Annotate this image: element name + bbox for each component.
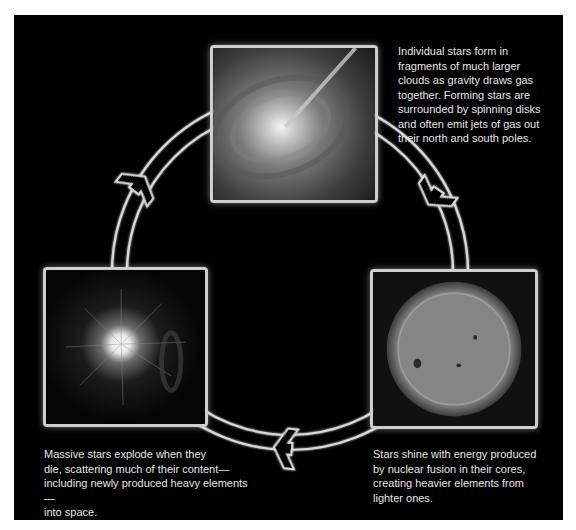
star-formation-caption: Individual stars form in fragments of mu…	[398, 44, 568, 146]
star-formation-image	[210, 45, 378, 203]
forming-star-disk-with-jet	[213, 48, 375, 200]
main-sequence-image	[370, 269, 538, 429]
main-sequence-caption: Stars shine with energy produced by nucl…	[373, 447, 558, 505]
sun-with-sunspots	[373, 272, 535, 426]
arrow-clockwise-up-right-icon	[116, 164, 161, 206]
supernova-explosion	[46, 270, 205, 424]
supernova-image	[43, 267, 208, 427]
supernova-caption: Massive stars explode when they die, sca…	[44, 447, 254, 520]
